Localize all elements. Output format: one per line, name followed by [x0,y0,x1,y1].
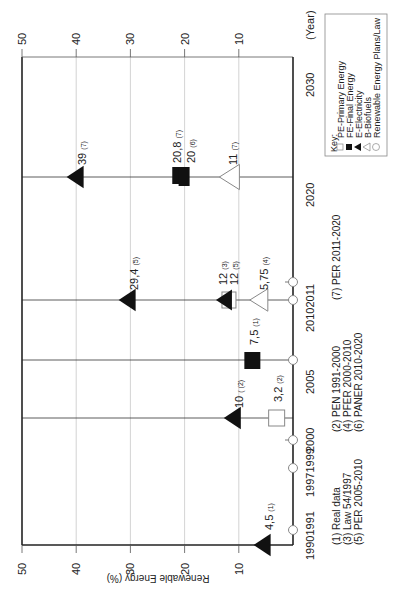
final-energy-square-icon [179,167,190,186]
data-label: 3,2 (2) [272,375,284,402]
gridlines [76,57,239,545]
legend: Key:PE-Primary EnergyFE-Final EnergyE-El… [325,14,387,156]
data-label: 39 (7) [76,141,88,165]
tick-label-bottom: 10 [233,563,245,575]
footnote: (1) Real data [331,487,342,545]
plan-circle-icon [289,436,298,445]
legend-entry-label: Renewable Energy Plans/Law [372,17,382,138]
tick-label-top: 30 [124,33,136,45]
data-label: 7,5 (1) [248,318,260,345]
tick-label-top: 20 [179,33,191,45]
legend-open-circle-icon [373,144,380,151]
year-lines [22,177,293,418]
data-label: 10 ( (2) [233,380,245,408]
tick-label-bottom: 40 [70,563,82,575]
value-axis-title: Renewable Energy (%) [107,573,210,584]
footnotes: (1) Real data(3) Law 54/1997(5) PER 2005… [331,214,364,545]
data-label: 11 (7) [227,142,239,165]
data-label: 20,8 (7) [171,130,183,163]
data-label: 12 (5) [228,261,240,285]
footnote: (6) PANER 2010-2020 [353,332,364,432]
year-label: 2005 [304,370,316,394]
year-label: 20102011 [304,284,316,332]
electricity-triangle-icon [224,407,241,430]
final-energy-square-icon [244,352,260,369]
electricity-triangle-icon [254,534,271,557]
year-label: 2020 [304,183,316,207]
footnote: (5) PER 2005-2010 [353,458,364,545]
renewable-energy-chart: 10102020303040405050 1990199119971999200… [0,0,402,609]
footnote: (4) PFER 2000-2010 [342,339,353,432]
data-label: 5,75 (4) [258,257,270,290]
electricity-triangle-icon [67,166,84,189]
biofuel-triangle-icon [250,289,268,311]
footnote: (7) PER 2011-2020 [331,214,342,300]
plan-circle-icon [289,296,298,305]
plan-circle-icon [289,526,298,535]
year-axis-ticks: 1990199119971999200020052010201120202030… [304,10,316,560]
footnote: (2) PEN 1991-2000 [331,345,342,432]
data-labels: 4,5 (1)10 ( (2)3,2 (2)7,5 (1)29,4 (5)12 … [76,130,284,530]
tick-label-top: 50 [16,33,28,45]
year-label: 2000 [304,428,316,452]
footnote: (3) Law 54/1997 [342,472,353,545]
biofuel-triangle-icon [219,164,239,189]
axis-title-text: Renewable Energy (%) [107,573,210,584]
primary-energy-square-icon [269,410,285,426]
data-label: 20 (6) [185,139,197,163]
tick-label-top: 40 [70,33,82,45]
electricity-triangle-icon [119,289,136,312]
year-label: 19971999 [304,448,316,497]
legend-filled-square-icon [346,144,352,150]
tick-label-top: 10 [233,33,245,45]
plan-circle-icon [289,278,298,287]
data-label: 29,4 (5) [128,257,140,290]
plan-circle-icon [289,464,298,473]
year-label: 19901991 [304,511,316,560]
data-label: 4,5 (1) [263,503,275,530]
tick-label-bottom: 50 [16,563,28,575]
year-unit-label: (Year) [304,10,316,40]
plan-circle-icon [289,356,298,365]
legend-open-square-icon [337,144,343,150]
year-label: 2030 [304,73,316,97]
